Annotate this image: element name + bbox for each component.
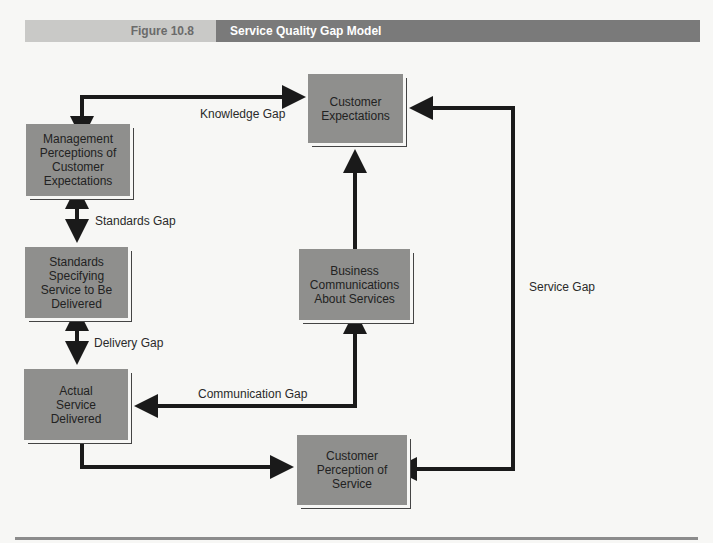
box-label: Customer Perception of Service — [317, 449, 388, 491]
knowledge-gap-label: Knowledge Gap — [200, 107, 285, 121]
box-standards: Standards Specifying Service to Be Deliv… — [25, 247, 128, 318]
bottom-rule — [15, 537, 698, 540]
box-label: Actual Service Delivered — [51, 384, 102, 426]
box-label: Management Perceptions of Customer Expec… — [40, 132, 117, 188]
service-gap-arrow — [413, 108, 513, 469]
box-label: Business Communications About Services — [310, 264, 399, 306]
box-management-perceptions: Management Perceptions of Customer Expec… — [26, 124, 130, 196]
box-label: Customer Expectations — [321, 95, 390, 123]
delivery-gap-label: Delivery Gap — [94, 336, 163, 350]
standards-gap-label: Standards Gap — [95, 214, 176, 228]
box-business-communications: Business Communications About Services — [299, 249, 410, 320]
actual-to-perception-arrow — [82, 444, 290, 467]
communication-gap-label: Communication Gap — [198, 387, 307, 401]
box-actual-service: Actual Service Delivered — [24, 369, 128, 440]
box-customer-expectations: Customer Expectations — [308, 74, 403, 143]
box-customer-perception: Customer Perception of Service — [297, 435, 407, 505]
box-label: Standards Specifying Service to Be Deliv… — [41, 255, 112, 311]
service-gap-label: Service Gap — [529, 280, 595, 294]
